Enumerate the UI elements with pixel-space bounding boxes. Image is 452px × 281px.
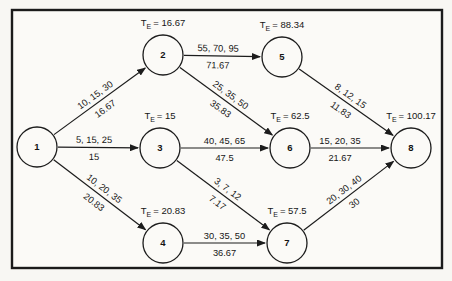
node-label-8: 8: [408, 142, 413, 153]
node-3: 3TE= 15: [140, 110, 180, 168]
edge-estimates-3-6: 40, 45, 65: [204, 136, 245, 146]
edge-expected-3-6: 47.5: [215, 153, 233, 163]
edge-expected-6-8: 21.67: [328, 153, 351, 163]
edge-expected-1-3: 15: [89, 152, 99, 162]
pert-diagram-figure: 10, 15, 3016.675, 15, 251510, 20, 3520.8…: [0, 0, 452, 281]
te-label-node-3: TE= 15: [144, 110, 175, 123]
node-label-3: 3: [157, 142, 162, 153]
edge-estimates-1-3: 5, 15, 25: [76, 135, 112, 145]
node-label-4: 4: [160, 237, 166, 248]
edge-expected-4-7: 36.67: [213, 248, 236, 258]
node-label-5: 5: [279, 51, 285, 62]
edge-estimates-6-8: 15, 20, 35: [319, 136, 360, 146]
edge-estimates-4-7: 30, 35, 50: [204, 231, 245, 241]
node-5: 5TE= 88.34: [260, 19, 304, 77]
node-4: 4TE= 20.83: [141, 205, 185, 263]
node-7: 7TE= 57.5: [267, 205, 307, 263]
node-label-2: 2: [160, 49, 165, 60]
node-label-7: 7: [284, 237, 289, 248]
node-6: 6TE= 62.5: [270, 110, 310, 168]
pert-network-diagram: 10, 15, 3016.675, 15, 251510, 20, 3520.8…: [0, 0, 452, 281]
edge-estimates-2-5: 55, 70, 95: [197, 43, 239, 54]
edge-1-3: [58, 147, 138, 148]
node-label-1: 1: [34, 141, 40, 152]
node-2: 2TE= 16.67: [141, 17, 185, 75]
edge-expected-2-5: 71.67: [206, 60, 229, 70]
node-1: 1: [17, 127, 57, 167]
node-label-6: 6: [287, 142, 292, 153]
